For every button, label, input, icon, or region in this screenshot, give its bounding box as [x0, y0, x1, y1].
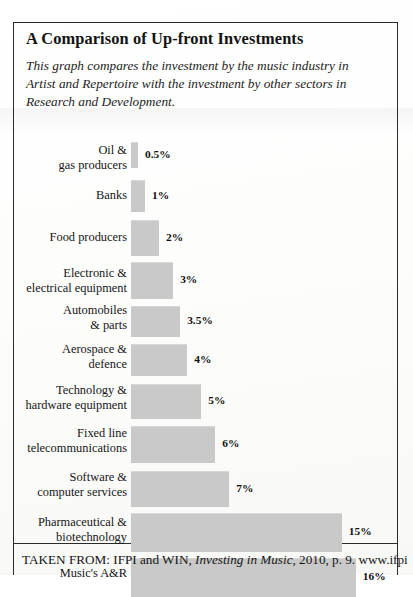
- bar-value-label: 3.5%: [187, 314, 213, 326]
- bar: [131, 220, 159, 256]
- bar: [131, 513, 342, 552]
- bar-value-label: 2%: [166, 231, 183, 243]
- source-title: Investing in Music: [195, 552, 292, 567]
- category-label: Technology & hardware equipment: [26, 383, 128, 412]
- bar-value-label: 4%: [194, 353, 211, 365]
- category-label: Automobiles & parts: [63, 303, 127, 332]
- category-label: Aerospace & defence: [62, 342, 127, 371]
- category-label: Software & computer services: [37, 470, 127, 499]
- bar-value-label: 5%: [208, 394, 225, 406]
- page-title: A Comparison of Up-front Investments: [26, 29, 303, 49]
- bar-value-label: 16%: [363, 570, 386, 582]
- bar-value-label: 1%: [152, 189, 169, 201]
- bar: [131, 426, 215, 463]
- bar-value-label: 6%: [222, 437, 239, 449]
- category-label: Oil & gas producers: [59, 143, 127, 172]
- category-label: Music's A&R: [60, 566, 127, 581]
- bar: [131, 142, 138, 168]
- bar-value-label: 0.5%: [145, 148, 171, 160]
- source-prefix: TAKEN FROM: IFPI and WIN,: [22, 552, 195, 567]
- bar: [131, 471, 229, 507]
- source-suffix: , 2010, p. 9. www.ifpi: [293, 552, 408, 567]
- category-label: Electronic & electrical equipment: [26, 266, 127, 295]
- bar-value-label: 7%: [236, 482, 253, 494]
- category-label: Pharmaceutical & biotechnology: [38, 515, 127, 544]
- bar: [131, 384, 201, 419]
- category-label: Food producers: [50, 230, 127, 245]
- bar-value-label: 15%: [349, 525, 372, 537]
- intro-paragraph: This graph compares the investment by th…: [26, 57, 381, 111]
- bar: [131, 180, 145, 212]
- bar: [131, 262, 173, 299]
- bar-value-label: 3%: [180, 273, 197, 285]
- bar: [131, 306, 180, 337]
- bar: [131, 344, 187, 376]
- category-label: Fixed line telecommunications: [27, 426, 127, 455]
- source-caption: TAKEN FROM: IFPI and WIN, Investing in M…: [22, 552, 408, 568]
- category-label: Banks: [96, 188, 127, 203]
